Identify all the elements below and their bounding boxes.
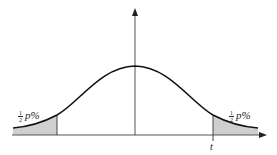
y-axis-arrow-icon bbox=[132, 8, 138, 16]
fraction-denominator: 2 bbox=[18, 117, 23, 123]
right-tail-label: 1 2 p% bbox=[229, 110, 251, 123]
right-tail-text: p% bbox=[236, 109, 251, 121]
fraction-numerator: 1 bbox=[18, 110, 23, 117]
fraction: 1 2 bbox=[18, 110, 23, 123]
fraction-numerator: 1 bbox=[229, 110, 234, 117]
bell-curve bbox=[13, 66, 258, 128]
cutoff-label: t bbox=[210, 142, 213, 152]
fraction-denominator: 2 bbox=[229, 117, 234, 123]
distribution-diagram bbox=[0, 0, 277, 155]
left-tail-text: p% bbox=[25, 109, 40, 121]
left-tail-label: 1 2 p% bbox=[18, 110, 40, 123]
x-axis-arrow-icon bbox=[259, 132, 267, 138]
fraction: 1 2 bbox=[229, 110, 234, 123]
